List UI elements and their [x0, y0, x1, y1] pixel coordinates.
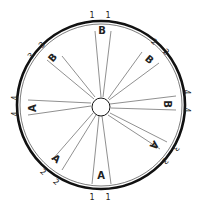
rim-number: 1	[89, 11, 94, 20]
spoke-line	[108, 52, 142, 99]
rim-number: 4	[11, 95, 20, 100]
spoke-line	[47, 60, 94, 99]
sector-label: B	[143, 53, 156, 66]
sector-label: A	[97, 170, 105, 181]
spoke-line	[103, 31, 111, 97]
sector-label: B	[162, 100, 173, 108]
spoke-line	[95, 31, 101, 97]
spoke-line	[109, 63, 159, 100]
sector-label: A	[50, 152, 63, 166]
sector-label: B	[46, 51, 59, 64]
sector-label: A	[27, 104, 38, 112]
hub-circle	[92, 98, 110, 116]
rim-number: 4	[182, 89, 191, 94]
rim-number: 4	[182, 107, 191, 112]
rim-number: 1	[89, 193, 94, 202]
rim-number: 4	[11, 111, 20, 116]
spoke-line	[28, 100, 91, 103]
spoke-line	[111, 108, 176, 110]
sector-label: A	[148, 139, 162, 152]
wheel-svg: BBBAAAAB 1122443311224433	[0, 0, 199, 208]
sector-label: B	[98, 25, 106, 36]
rim-number: 2	[51, 177, 61, 187]
rim-number: 1	[105, 11, 110, 20]
rim-number: 2	[38, 167, 48, 177]
spoke-line	[110, 113, 167, 142]
rim-number: 1	[105, 193, 110, 202]
wheel-diagram: BBBAAAAB 1122443311224433	[0, 0, 199, 208]
